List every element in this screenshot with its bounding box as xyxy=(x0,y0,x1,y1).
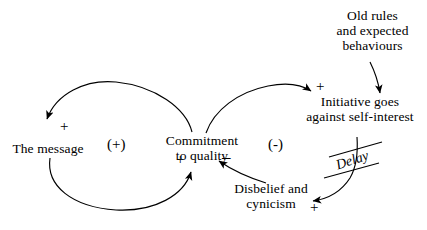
causal-loop-diagram: The message Commitment to quality Initia… xyxy=(0,0,427,230)
node-commitment-to-quality: Commitment to quality xyxy=(154,133,250,163)
polarity-commitment-to-initiative: + xyxy=(316,79,324,94)
loop-label-reinforcing: (+) xyxy=(107,136,125,153)
loop-label-balancing: (-) xyxy=(268,136,283,153)
link-message-to-commitment xyxy=(50,158,191,210)
link-oldrules-to-initiative xyxy=(370,62,380,93)
link-commitment-to-message xyxy=(47,82,192,132)
polarity-disbelief-to-commitment: – xyxy=(222,149,231,164)
node-initiative-against-self-interest: Initiative goes against self-interest xyxy=(293,94,427,124)
polarity-initiative-to-disbelief: + xyxy=(310,200,318,215)
node-old-rules: Old rules and expected behaviours xyxy=(318,8,427,53)
node-the-message: The message xyxy=(0,141,96,156)
polarity-commitment-to-message: + xyxy=(60,119,68,134)
polarity-message-to-commitment: + xyxy=(176,152,184,167)
